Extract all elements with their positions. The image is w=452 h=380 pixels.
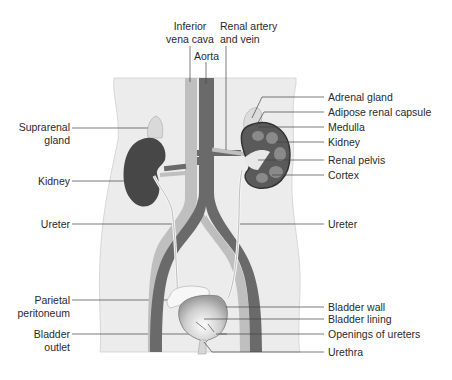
label-suprarenal-gland: Suprarenal gland — [0, 121, 70, 146]
label-text: peritoneum — [0, 307, 70, 320]
label-ureter-left: Ureter — [0, 218, 70, 231]
label-bladder-wall: Bladder wall — [328, 301, 385, 314]
label-kidney-left: Kidney — [0, 175, 70, 188]
label-renal-artery-vein: Renal artery and vein — [220, 20, 277, 45]
label-parietal-peritoneum: Parietal peritoneum — [0, 294, 70, 319]
label-bladder-outlet: Bladder outlet — [0, 328, 70, 353]
label-text: vena cava — [150, 33, 230, 46]
label-medulla: Medulla — [328, 121, 365, 134]
label-urethra: Urethra — [328, 346, 363, 359]
label-cortex: Cortex — [328, 169, 359, 182]
label-renal-pelvis: Renal pelvis — [328, 154, 385, 167]
label-bladder-lining: Bladder lining — [328, 313, 392, 326]
label-inferior-vena-cava: Inferior vena cava — [150, 20, 230, 45]
label-text: and vein — [220, 33, 277, 46]
label-kidney-right: Kidney — [328, 136, 360, 149]
label-text: gland — [0, 134, 70, 147]
label-text: Inferior — [150, 20, 230, 33]
label-ureter-right: Ureter — [328, 218, 357, 231]
label-text: outlet — [0, 341, 70, 354]
label-aorta: Aorta — [194, 50, 219, 63]
label-text: Parietal — [0, 294, 70, 307]
label-text: Renal artery — [220, 20, 277, 33]
label-openings-of-ureters: Openings of ureters — [328, 328, 420, 341]
label-text: Bladder — [0, 328, 70, 341]
label-text: Suprarenal — [0, 121, 70, 134]
label-adipose-renal-capsule: Adipose renal capsule — [328, 106, 431, 119]
label-adrenal-gland: Adrenal gland — [328, 91, 393, 104]
